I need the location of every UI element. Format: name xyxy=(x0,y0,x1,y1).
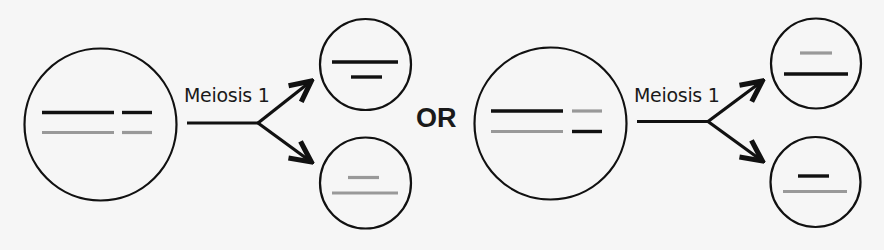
parent-cell xyxy=(25,49,177,201)
daughter-cell-top xyxy=(320,19,411,110)
scenario-2 xyxy=(475,19,862,228)
cell-membrane xyxy=(320,19,411,110)
process-label-scenario-2: Meiosis 1 xyxy=(634,86,720,105)
cell-membrane xyxy=(475,48,627,200)
cell-membrane xyxy=(771,19,861,109)
scenario-1 xyxy=(25,19,412,229)
parent-cell xyxy=(475,48,627,200)
daughter-cell-bottom xyxy=(771,137,861,227)
separator-or-label: OR xyxy=(416,105,457,132)
daughter-cell-bottom xyxy=(320,138,411,229)
cell-membrane xyxy=(320,138,411,229)
cell-membrane xyxy=(25,49,177,201)
daughter-cell-top xyxy=(771,19,861,109)
arrow-branch-down xyxy=(708,122,761,161)
process-label-scenario-1: Meiosis 1 xyxy=(184,86,270,105)
cell-membrane xyxy=(771,137,861,227)
arrow-branch-down xyxy=(258,123,310,161)
